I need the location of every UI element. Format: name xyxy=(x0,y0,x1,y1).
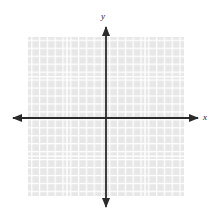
x-axis-label: x xyxy=(203,113,207,122)
y-axis-bottom-arrowhead xyxy=(102,198,110,208)
y-axis-label: y xyxy=(101,12,105,21)
x-axis-left-arrowhead xyxy=(12,114,22,122)
coordinate-grid-figure: y x xyxy=(0,0,214,217)
coordinate-plane-svg xyxy=(0,0,214,217)
y-axis-top-arrowhead xyxy=(102,26,110,36)
x-axis-right-arrowhead xyxy=(189,114,199,122)
